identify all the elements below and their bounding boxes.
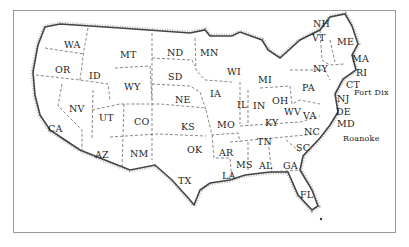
state-label-ok: OK: [187, 145, 202, 155]
state-label-ms: MS: [236, 160, 253, 170]
state-label-nm: NM: [130, 149, 148, 159]
state-label-ne: NE: [175, 95, 191, 105]
state-label-wa: WA: [64, 40, 81, 50]
state-label-ca: CA: [48, 124, 63, 134]
state-label-or: OR: [55, 65, 70, 75]
state-label-vt: VT: [312, 33, 326, 43]
state-label-nh: NH: [313, 19, 330, 29]
state-label-sc: SC: [296, 143, 310, 153]
state-label-wi: WI: [227, 67, 241, 77]
state-label-wy: WY: [124, 82, 140, 92]
state-label-tn: TN: [257, 137, 272, 147]
state-label-tx: TX: [178, 176, 192, 186]
state-label-ri: RI: [356, 68, 367, 78]
state-label-md: MD: [337, 119, 355, 129]
state-label-mi: MI: [258, 75, 272, 85]
state-label-pa: PA: [302, 83, 315, 93]
state-label-sd: SD: [168, 72, 183, 82]
state-label-il: IL: [237, 100, 247, 110]
state-label-az: AZ: [95, 150, 109, 160]
state-label-oh: OH: [272, 96, 288, 106]
state-label-de: DE: [336, 107, 351, 117]
state-label-ga: GA: [283, 161, 298, 171]
place-label-fort-dix: Fort Dix: [354, 89, 389, 97]
place-label-roanoke: Roanoke: [343, 135, 380, 143]
state-label-ut: UT: [99, 113, 114, 123]
state-label-ma: MA: [352, 54, 369, 64]
state-label-ny: NY: [313, 64, 328, 74]
state-label-la: LA: [222, 171, 236, 181]
state-label-va: VA: [303, 111, 316, 121]
state-label-co: CO: [134, 117, 149, 127]
state-label-ks: KS: [181, 122, 195, 132]
state-label-nv: NV: [69, 104, 85, 114]
state-label-id: ID: [89, 71, 101, 81]
state-label-mt: MT: [120, 50, 136, 60]
state-label-ia: IA: [210, 89, 221, 99]
state-label-in: IN: [253, 101, 265, 111]
state-label-ar: AR: [219, 148, 233, 158]
state-label-fl: FL: [300, 190, 313, 200]
state-label-nd: ND: [167, 48, 183, 58]
state-label-me: ME: [337, 37, 354, 47]
state-label-mn: MN: [200, 48, 218, 58]
state-label-mo: MO: [217, 120, 235, 130]
state-label-al: AL: [259, 161, 273, 171]
state-label-ky: KY: [265, 118, 279, 128]
state-label-wv: WV: [284, 107, 301, 117]
state-label-nc: NC: [304, 127, 320, 137]
state-label-nj: NJ: [337, 94, 350, 104]
